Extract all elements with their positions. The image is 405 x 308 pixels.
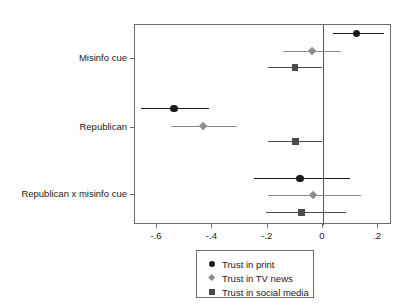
x-axis-tick-label: -.6 [136,230,176,241]
y-axis-tick-label: Misinfo cue [79,52,127,63]
legend-label: Trust in print [222,259,274,270]
x-axis-tick-label: -.4 [191,230,231,241]
y-axis-tick [130,58,134,59]
x-axis-tick-label: -.2 [247,230,287,241]
point-marker [296,175,304,183]
point-marker [292,138,299,145]
y-axis-tick-label: Republican [79,121,127,132]
legend-marker-square-icon [205,289,219,295]
legend-swatch [209,289,215,295]
plot-panel [134,24,391,224]
x-axis-tick [322,224,323,228]
x-axis-tick [267,224,268,228]
legend-swatch [209,261,216,268]
x-axis-tick-label: .2 [357,230,397,241]
x-axis-tick [156,224,157,228]
coefficient-plot-figure: Misinfo cueRepublicanRepublican x misinf… [0,0,405,308]
legend-marker-circle-icon [205,261,219,268]
x-axis-tick-label: 0 [302,230,342,241]
confidence-interval-line [266,212,346,213]
point-marker [292,64,299,71]
x-axis-tick [377,224,378,228]
x-axis-tick [211,224,212,228]
y-axis-tick [130,127,134,128]
legend-label: Trust in TV news [222,273,293,284]
legend: Trust in printTrust in TV newsTrust in s… [196,250,314,298]
y-axis-tick-label: Republican x misinfo cue [21,188,127,199]
legend-marker-diamond-icon [205,275,219,280]
legend-label: Trust in social media [222,287,309,298]
point-marker [170,105,178,113]
legend-swatch [208,274,216,282]
legend-item: Trust in print [205,257,274,271]
legend-item: Trust in TV news [205,271,293,285]
point-marker [298,209,305,216]
y-axis-tick [130,194,134,195]
legend-item: Trust in social media [205,285,309,299]
